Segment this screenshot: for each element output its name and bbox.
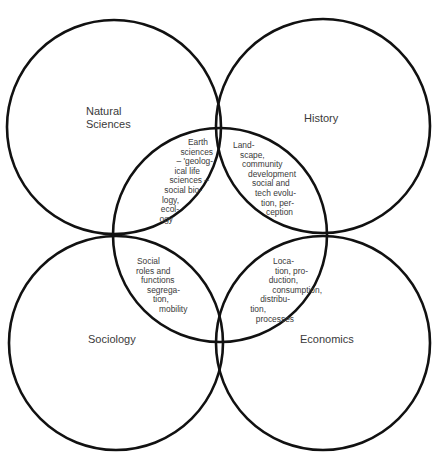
- overlap-ns-line: social bio-: [137, 186, 225, 196]
- overlap-sociology-line: mobility: [136, 305, 187, 315]
- overlap-history-line: ception: [233, 208, 296, 218]
- label-natural-sciences-line1: Natural: [86, 105, 131, 118]
- overlap-ns-line: ecol-: [137, 205, 225, 215]
- label-natural-sciences: Natural Sciences: [86, 105, 131, 131]
- label-economics: Economics: [300, 333, 354, 346]
- overlap-economics-line: processes: [240, 315, 326, 325]
- overlap-natural-sciences: Earth sciences – 'geolog- ical life scie…: [137, 138, 225, 224]
- overlap-history: Land- scape, community development socia…: [233, 141, 296, 218]
- overlap-ns-line: ogy: [137, 215, 225, 225]
- label-history: History: [304, 112, 338, 125]
- overlap-sociology: Social roles and functions segrega- tion…: [136, 257, 187, 315]
- label-natural-sciences-line2: Sciences: [86, 118, 131, 131]
- label-sociology: Sociology: [88, 333, 136, 346]
- overlap-economics: Loca- tion, pro- duction, consumption, d…: [240, 257, 326, 324]
- overlap-ns-line: logy,: [137, 196, 225, 206]
- venn-diagram: [0, 0, 441, 459]
